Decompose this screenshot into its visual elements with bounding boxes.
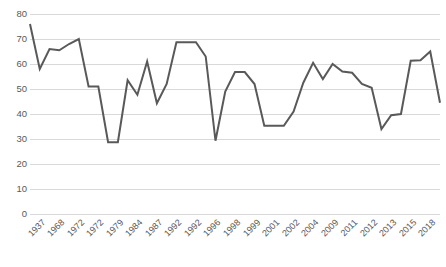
y-tick-label-80: 80: [3, 9, 27, 19]
line-chart: 80706050403020100 1937196819721972197919…: [0, 0, 446, 267]
x-axis: 1937196819721972197919841987199219921996…: [30, 214, 440, 267]
y-tick-label-60: 60: [3, 59, 27, 69]
y-axis: 80706050403020100: [0, 0, 27, 267]
data-line-svg: [30, 14, 440, 214]
y-tick-label-50: 50: [3, 84, 27, 94]
y-tick-label-20: 20: [3, 159, 27, 169]
y-tick-label-40: 40: [3, 109, 27, 119]
y-tick-label-0: 0: [3, 209, 27, 219]
y-tick-label-30: 30: [3, 134, 27, 144]
data-line-path: [30, 24, 440, 142]
y-tick-label-70: 70: [3, 34, 27, 44]
y-tick-label-10: 10: [3, 184, 27, 194]
plot-area: [30, 14, 440, 214]
